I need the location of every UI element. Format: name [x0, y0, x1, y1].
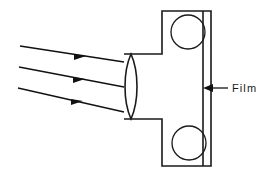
biconvex-lens [125, 54, 137, 119]
film-label: Film [232, 83, 257, 94]
film-leader-arrow-icon [203, 84, 213, 92]
diagram-canvas [0, 0, 268, 178]
film-spool-top [171, 15, 205, 49]
light-ray-middle [19, 67, 124, 87]
light-ray-upper [20, 46, 124, 62]
film-spool-bottom [172, 126, 206, 160]
camera-optics-diagram: Film [0, 0, 268, 178]
